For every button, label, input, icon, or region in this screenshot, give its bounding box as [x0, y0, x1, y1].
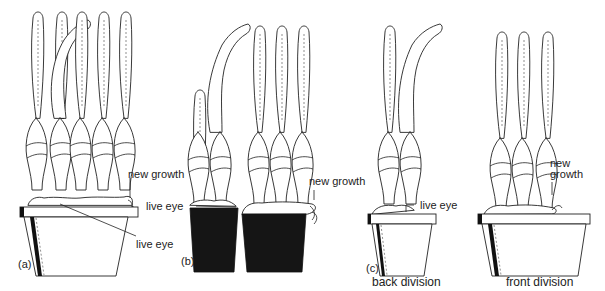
panel-b-plant	[188, 24, 317, 272]
label-b-new-growth: new growth	[309, 175, 365, 187]
label-a-live-eye: live eye	[136, 238, 173, 250]
label-a-new-growth: new growth	[128, 168, 184, 180]
panel-a-plant	[20, 12, 138, 276]
panel-label-a: (a)	[18, 258, 31, 270]
panel-label-c: (c)	[366, 262, 379, 274]
diagram-canvas: new growth live eye (a) live eye new gro…	[0, 0, 605, 291]
label-c-live-eye: live eye	[420, 199, 457, 211]
label-d-growth: growth	[550, 168, 583, 180]
caption-back-division: back division	[372, 276, 441, 288]
panel-label-b: (b)	[181, 255, 194, 267]
panel-c-plant	[368, 24, 442, 276]
panel-d-plant	[478, 32, 590, 276]
label-b-live-eye: live eye	[146, 200, 183, 212]
caption-front-division: front division	[506, 276, 573, 288]
